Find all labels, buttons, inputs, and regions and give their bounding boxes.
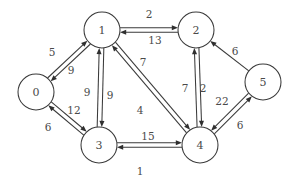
edge-weight-2-4: 2	[200, 82, 207, 94]
node-4[interactable]: 4	[182, 127, 218, 163]
node-label-3: 3	[96, 139, 103, 152]
arrowhead-3-to-4	[176, 140, 182, 145]
graph-figure: 012345 591262139947271156226	[0, 0, 296, 183]
edge-weight-4-1: 7	[140, 56, 147, 68]
node-label-1: 1	[99, 24, 106, 37]
node-0[interactable]: 0	[18, 74, 54, 110]
edge-weight-5-2: 6	[232, 45, 239, 57]
edge-weight-5-4: 22	[215, 95, 228, 107]
graph-canvas: 012345 591262139947271156226	[0, 0, 296, 183]
node-label-0: 0	[33, 86, 40, 99]
arrowhead-2-to-4	[199, 121, 204, 127]
edge-weight-3-4: 1	[137, 165, 144, 177]
arrowhead-1-to-2	[172, 25, 178, 30]
arrowhead-1-to-3	[99, 121, 104, 127]
edge-weight-4-5: 6	[237, 119, 244, 131]
edge-weight-0-1: 5	[49, 46, 56, 58]
edge-4-to-2	[195, 53, 198, 127]
node-label-2: 2	[193, 24, 200, 37]
edge-1-to-3	[102, 48, 104, 122]
edge-weight-4-2: 7	[182, 82, 189, 94]
node-5[interactable]: 5	[245, 64, 281, 100]
edge-4-to-1	[115, 49, 186, 133]
edge-weight-3-1: 9	[107, 89, 114, 101]
arrowhead-2-to-1	[120, 30, 126, 35]
edge-weight-1-3: 9	[84, 86, 91, 98]
node-label-5: 5	[260, 76, 267, 89]
edge-1-to-4	[115, 42, 186, 126]
arrowhead-3-to-1	[97, 48, 102, 54]
edge-weight-0-3: 12	[67, 104, 80, 116]
edge-weight-2-1: 13	[148, 34, 161, 46]
node-1[interactable]: 1	[84, 12, 120, 48]
edge-weight-3-0: 6	[45, 121, 52, 133]
edge-3-to-1	[97, 53, 99, 127]
edge-weight-1-0: 9	[68, 64, 75, 76]
arrowhead-4-to-3	[117, 145, 123, 150]
edge-weight-4-3: 15	[141, 130, 154, 142]
edge-weight-1-4: 4	[137, 104, 144, 116]
node-2[interactable]: 2	[178, 12, 214, 48]
edge-weight-1-2: 2	[146, 8, 153, 20]
node-3[interactable]: 3	[81, 127, 117, 163]
arrowhead-4-to-2	[192, 48, 197, 54]
node-label-4: 4	[197, 139, 204, 152]
